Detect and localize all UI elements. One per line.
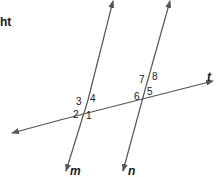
label-t: t <box>207 71 211 83</box>
angle-label-3: 3 <box>76 97 82 107</box>
angle-label-2: 2 <box>73 110 79 120</box>
angle-label-1: 1 <box>86 111 92 121</box>
angle-label-8: 8 <box>152 72 158 82</box>
diagram-canvas <box>0 0 217 177</box>
line-n-lower <box>123 90 145 171</box>
angle-label-6: 6 <box>134 92 140 102</box>
angle-label-7: 7 <box>139 75 145 85</box>
line-m-upper <box>88 1 113 100</box>
parallel-lines-diagram: ht t m n 3 4 2 1 7 8 6 5 <box>0 0 217 177</box>
angle-label-5: 5 <box>147 87 153 97</box>
angle-label-4: 4 <box>90 94 96 104</box>
label-m: m <box>70 165 81 177</box>
transversal-line-t-left <box>12 120 60 133</box>
label-n: n <box>128 165 135 177</box>
cut-off-text: ht <box>0 16 11 28</box>
